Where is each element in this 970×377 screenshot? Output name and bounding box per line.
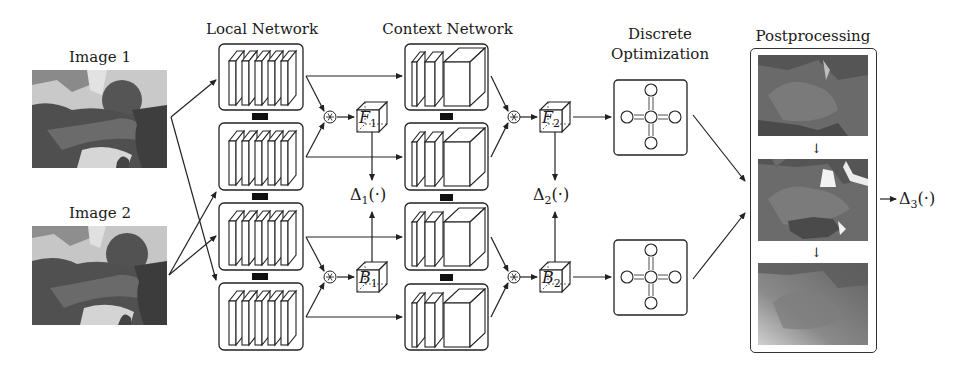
f2-label: F2 bbox=[542, 108, 560, 130]
stage-arrow-1: ↓ bbox=[811, 141, 822, 156]
delta2-loss: Δ2(·) bbox=[533, 185, 569, 207]
postprocessing-panel: ↓ ↓ bbox=[750, 48, 877, 353]
local-network bbox=[219, 44, 303, 350]
stage-arrow-2: ↓ bbox=[811, 245, 822, 260]
delta3-loss: Δ3(·) bbox=[899, 189, 935, 211]
postprocessing-stage-1 bbox=[758, 55, 868, 136]
mrf-graph-forward bbox=[614, 80, 687, 155]
delta1-loss: Δ1(·) bbox=[350, 185, 386, 207]
b2-label: B2 bbox=[542, 268, 561, 290]
context-network bbox=[405, 44, 488, 350]
mrf-graph-backward bbox=[614, 240, 687, 315]
postprocessing-stage-2 bbox=[758, 159, 868, 241]
postprocessing-stage-3 bbox=[758, 263, 868, 345]
input-connections bbox=[169, 80, 216, 280]
b1-label: B1 bbox=[359, 268, 378, 290]
f1-label: F1 bbox=[359, 108, 377, 130]
